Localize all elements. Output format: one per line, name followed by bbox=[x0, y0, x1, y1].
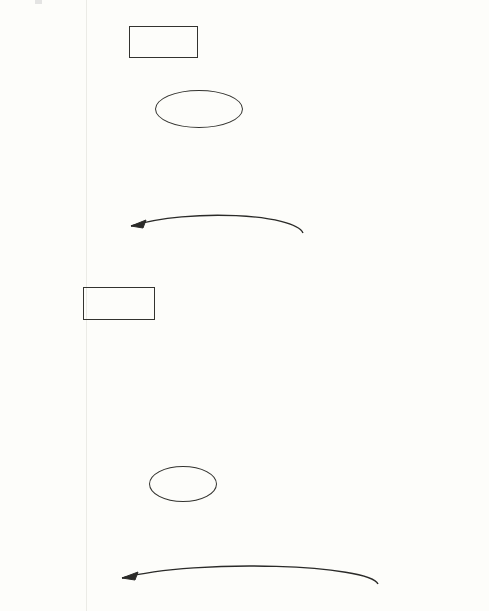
reference-arrow-10 bbox=[0, 0, 489, 611]
worksheet-page bbox=[0, 0, 489, 611]
